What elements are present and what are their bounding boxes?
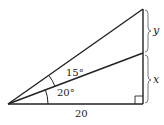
angle-label-20: 20°: [57, 87, 75, 98]
angle-arc-20: [45, 90, 48, 104]
outer-hypotenuse: [8, 9, 143, 104]
right-angle-marker: [135, 96, 143, 104]
angle-arc-15: [49, 76, 55, 87]
inner-line: [8, 53, 143, 104]
triangle-diagram: y x 15° 20° 20: [0, 0, 164, 125]
base-label: 20: [75, 108, 88, 119]
segment-label-x: x: [153, 73, 160, 86]
segment-label-y: y: [152, 24, 160, 37]
brace-y: [145, 10, 151, 52]
angle-label-15: 15°: [66, 67, 84, 78]
brace-x: [145, 55, 151, 103]
